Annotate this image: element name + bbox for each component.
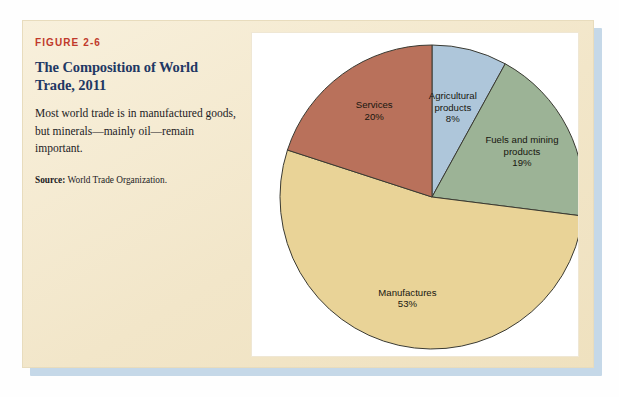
- source-label: Source:: [35, 175, 65, 185]
- source-text: World Trade Organization.: [65, 175, 167, 185]
- page-title: The Composition of World Trade, 2011: [35, 58, 240, 94]
- pie-chart: Agriculturalproducts8%Fuels and miningpr…: [252, 33, 579, 357]
- figure-number: FIGURE 2-6: [35, 37, 240, 48]
- figure-source: Source: World Trade Organization.: [35, 174, 240, 187]
- figure-card: FIGURE 2-6 The Composition of World Trad…: [22, 20, 594, 368]
- figure-description: Most world trade is in manufactured good…: [35, 105, 240, 157]
- pie-chart-svg: Agriculturalproducts8%Fuels and miningpr…: [252, 33, 579, 357]
- chart-panel: Agriculturalproducts8%Fuels and miningpr…: [251, 32, 579, 357]
- figure-screenshot: FIGURE 2-6 The Composition of World Trad…: [0, 0, 619, 397]
- figure-text-column: FIGURE 2-6 The Composition of World Trad…: [35, 29, 240, 187]
